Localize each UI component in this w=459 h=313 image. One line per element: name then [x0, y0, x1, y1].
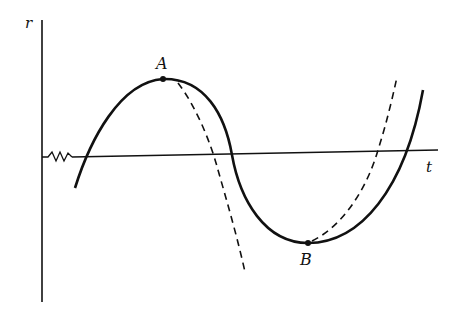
horizontal-axis-label: t — [426, 160, 432, 175]
point-b-label: B — [300, 252, 312, 268]
axis-break-icon — [42, 152, 72, 161]
diagram-canvas: r t A B — [0, 0, 459, 313]
horizontal-axis — [72, 150, 438, 157]
vertical-axis-label: r — [25, 16, 32, 31]
dashed-curve-from-b — [312, 77, 397, 241]
point-a — [160, 76, 166, 82]
diagram-svg — [0, 0, 459, 313]
dashed-curve-from-a — [178, 83, 245, 272]
point-b — [305, 240, 311, 246]
point-a-label: A — [156, 56, 168, 72]
solid-curve — [75, 79, 423, 243]
